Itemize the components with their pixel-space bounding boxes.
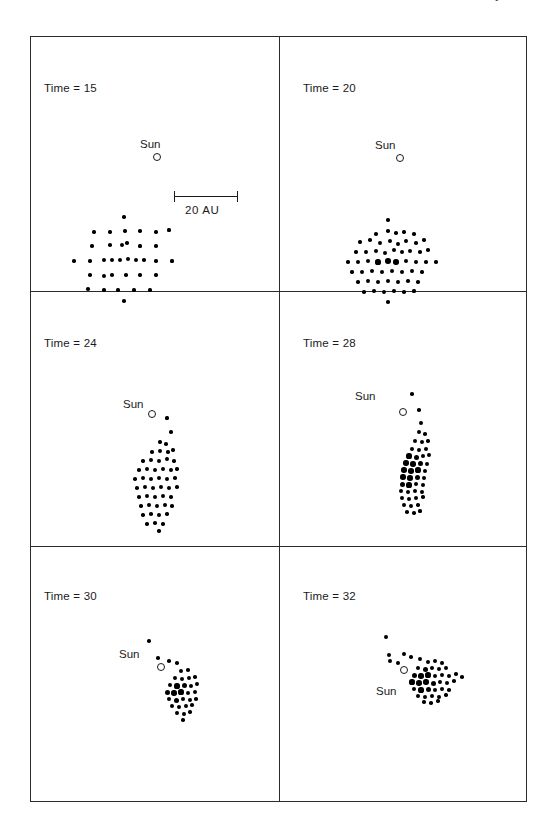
particle-dot — [433, 674, 438, 679]
sun-marker-icon — [400, 666, 408, 674]
particle-dot — [418, 687, 423, 692]
particle-dot — [445, 681, 449, 685]
particle-dot — [440, 661, 444, 665]
particle-dot — [409, 655, 413, 659]
particle-dot — [429, 701, 433, 705]
particle-dot — [426, 687, 431, 692]
particle-dot — [444, 693, 447, 696]
particle-dot — [412, 687, 417, 692]
particle-dot — [416, 666, 421, 671]
scale-bar-line — [174, 196, 238, 197]
particle-dot — [396, 661, 400, 665]
particle-dot — [416, 694, 420, 698]
particle-dot — [440, 687, 444, 691]
particle-dot — [387, 653, 391, 657]
particle-dot — [460, 675, 464, 679]
particle-dot — [436, 699, 439, 702]
figure-root: p Time = 15SunTime = 20SunTime = 24SunTi… — [0, 0, 555, 832]
particle-dot — [409, 679, 414, 684]
particle-dot — [418, 673, 423, 678]
sun-label: Sun — [376, 685, 396, 697]
particle-dot — [425, 672, 430, 677]
scale-bar-label: 20 AU — [185, 204, 219, 216]
particle-dot — [416, 680, 422, 686]
particle-dot — [447, 674, 451, 678]
panel-time-label: Time = 32 — [303, 590, 356, 602]
particle-dot — [433, 688, 438, 693]
particle-dot — [430, 666, 435, 671]
particle-dot — [430, 694, 434, 698]
particle-dot — [454, 672, 457, 675]
particle-dot — [447, 688, 451, 692]
particle-dot — [412, 673, 417, 678]
particle-dot — [423, 695, 427, 699]
particle-dot — [440, 673, 444, 677]
particle-dot — [444, 666, 448, 670]
particle-dot — [423, 679, 428, 684]
particle-dot — [384, 635, 388, 639]
particle-dot — [452, 679, 456, 683]
particle-dot — [431, 681, 436, 686]
scatter-panel: Time = 32Sun — [0, 0, 555, 832]
particle-dot — [402, 652, 406, 656]
scale-bar-cap-right — [237, 191, 238, 202]
particle-dot — [438, 680, 442, 684]
particle-dot — [437, 667, 441, 671]
particle-dot — [388, 659, 392, 663]
particle-dot — [418, 657, 422, 661]
particle-dot — [426, 660, 430, 664]
scale-bar-cap-left — [174, 191, 175, 202]
particle-dot — [433, 659, 437, 663]
particle-dot — [423, 667, 428, 672]
particle-dot — [422, 700, 426, 704]
